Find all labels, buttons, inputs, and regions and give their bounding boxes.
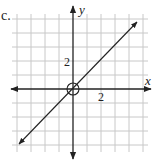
y-tick-label-2: 2 [64, 55, 70, 69]
panel-label: c. [1, 8, 11, 23]
grid-lines [12, 14, 148, 152]
y-axis-label: y [77, 2, 85, 17]
coordinate-graph: c. y x 2 2 [0, 0, 155, 164]
x-axis-label: x [144, 73, 151, 88]
x-tick-label-2: 2 [98, 90, 104, 104]
graph-line [19, 22, 137, 144]
